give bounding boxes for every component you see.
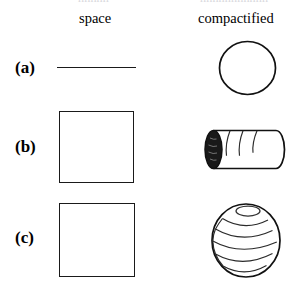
shape-square-row-c	[59, 203, 135, 277]
shape-line-row-a	[57, 67, 136, 68]
shape-square-row-b	[59, 111, 134, 183]
compactification-figure: hhhhh hhhhhhhhhhh space compactified (a)…	[0, 0, 308, 291]
column-header-compactified: compactified	[198, 11, 274, 26]
column-header-space: space	[79, 11, 111, 26]
clipped-top-text: hhhhh hhhhhhhhhhh	[0, 0, 308, 3]
row-label-c: (c)	[15, 229, 34, 246]
shape-cylinder-row-b	[202, 124, 292, 178]
shape-circle-row-a	[216, 38, 280, 98]
clipped-top-text-right: hhhhhhhhhhh	[200, 0, 268, 3]
clipped-top-text-left: hhhhh	[78, 0, 109, 3]
shape-sphere-row-c	[207, 198, 289, 284]
row-label-b: (b)	[15, 138, 36, 155]
row-label-a: (a)	[15, 59, 35, 76]
